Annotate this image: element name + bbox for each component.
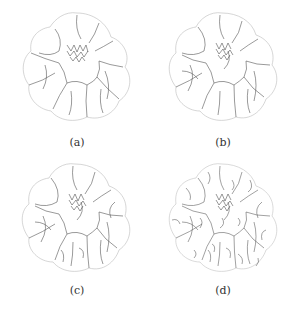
- panel-c-caption: (c): [57, 284, 97, 297]
- flower-outline-b: [162, 5, 287, 125]
- panel-c: [15, 158, 140, 276]
- panel-a: [15, 5, 140, 125]
- panel-d-caption: (d): [203, 284, 243, 297]
- flower-outline-c: [15, 158, 140, 276]
- panel-d: [162, 158, 287, 276]
- flower-outline-a: [15, 5, 140, 125]
- flower-outline-d: [162, 158, 287, 276]
- panel-b-caption: (b): [203, 136, 243, 149]
- panel-a-caption: (a): [57, 136, 97, 149]
- panel-b: [162, 5, 287, 125]
